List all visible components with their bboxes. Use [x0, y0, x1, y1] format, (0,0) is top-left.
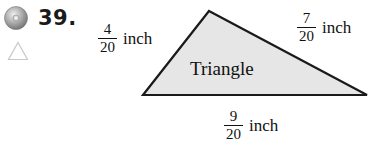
- side-label-bottom: 9 20 inch: [224, 109, 278, 142]
- fraction: 9 20: [224, 109, 243, 142]
- fraction: 4 20: [98, 22, 117, 55]
- side-label-left: 4 20 inch: [98, 22, 152, 55]
- triangle-label: Triangle: [190, 58, 254, 80]
- fraction: 7 20: [297, 11, 316, 44]
- side-label-right: 7 20 inch: [297, 11, 351, 44]
